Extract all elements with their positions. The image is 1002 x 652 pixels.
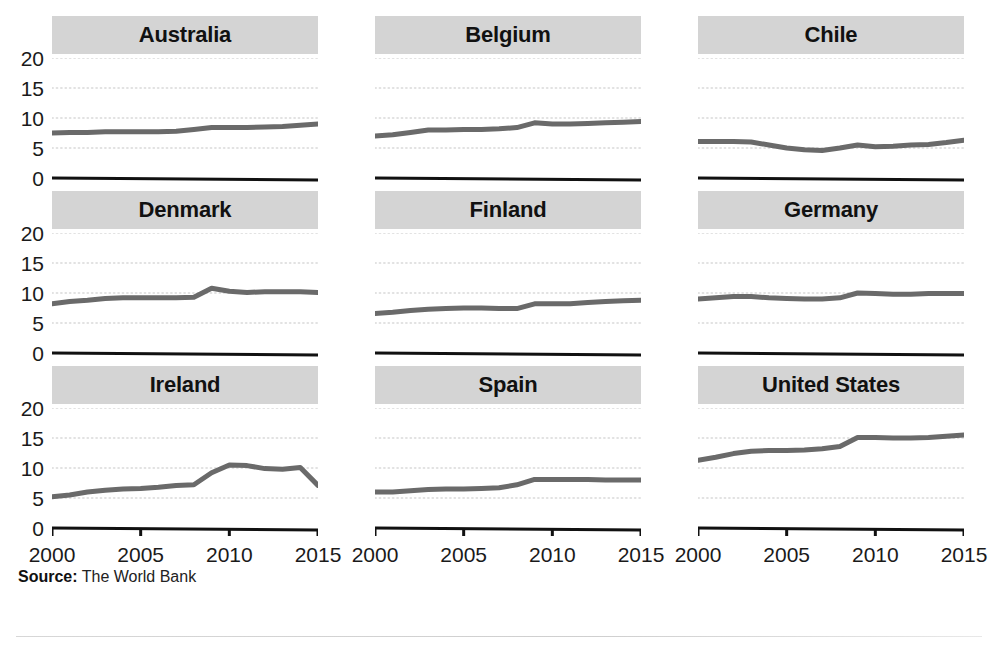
x-axis-line (52, 353, 318, 355)
y-axis-tick-label: 15 (4, 78, 44, 99)
y-axis-tick-label: 10 (4, 458, 44, 479)
y-axis-tick-label: 10 (4, 283, 44, 304)
x-axis-line (52, 178, 318, 180)
plot-area (375, 58, 641, 178)
series-line (52, 288, 318, 304)
source-label: Source: (18, 568, 78, 585)
series-line (52, 124, 318, 133)
panel-title: Australia (52, 16, 318, 54)
plot-svg (375, 408, 641, 536)
x-axis-tick-label: 2000 (340, 544, 410, 565)
y-axis-tick-label: 5 (4, 488, 44, 509)
plot-svg (698, 58, 964, 186)
plot-area (52, 408, 318, 528)
plot-svg (698, 233, 964, 361)
plot-svg (52, 408, 318, 536)
plot-area (375, 233, 641, 353)
x-axis-tick-label: 2000 (17, 544, 87, 565)
plot-area (52, 233, 318, 353)
source-note: Source: The World Bank (18, 568, 196, 586)
panel-title: Finland (375, 191, 641, 229)
x-axis-tick-label: 2015 (929, 544, 999, 565)
panel-title: Germany (698, 191, 964, 229)
x-axis-line (698, 178, 964, 180)
chart-figure: Australia20151050BelgiumChileDenmark2015… (0, 0, 1002, 652)
plot-area (698, 408, 964, 528)
y-axis-tick-label: 20 (4, 398, 44, 419)
x-axis-line (375, 353, 641, 355)
panel-title: Belgium (375, 16, 641, 54)
series-line (375, 300, 641, 313)
series-line (698, 140, 964, 150)
plot-area (698, 233, 964, 353)
x-axis-tick-label: 2005 (429, 544, 499, 565)
series-line (375, 122, 641, 136)
x-axis-line (698, 353, 964, 355)
x-axis-line (698, 528, 964, 530)
small-multiples-grid: Australia20151050BelgiumChileDenmark2015… (0, 8, 1002, 528)
x-axis-tick-label: 2000 (663, 544, 733, 565)
y-axis-tick-label: 0 (4, 168, 44, 189)
y-axis-tick-label: 20 (4, 48, 44, 69)
x-axis-tick-label: 2010 (517, 544, 587, 565)
x-axis-tick-label: 2010 (194, 544, 264, 565)
x-axis-tick-label: 2010 (840, 544, 910, 565)
y-axis-tick-label: 10 (4, 108, 44, 129)
plot-svg (375, 233, 641, 361)
plot-svg (698, 408, 964, 536)
series-line (698, 293, 964, 299)
plot-svg (52, 233, 318, 361)
y-axis-tick-label: 15 (4, 253, 44, 274)
y-axis-tick-label: 5 (4, 313, 44, 334)
y-axis-tick-label: 20 (4, 223, 44, 244)
panel-title: Chile (698, 16, 964, 54)
series-line (375, 479, 641, 492)
x-axis-line (375, 178, 641, 180)
plot-area (698, 58, 964, 178)
y-axis-tick-label: 0 (4, 518, 44, 539)
y-axis-tick-label: 5 (4, 138, 44, 159)
panel-title: Denmark (52, 191, 318, 229)
plot-area (52, 58, 318, 178)
plot-svg (375, 58, 641, 186)
footer-divider (16, 636, 982, 637)
y-axis-tick-label: 15 (4, 428, 44, 449)
y-axis-tick-label: 0 (4, 343, 44, 364)
plot-svg (52, 58, 318, 186)
plot-area (375, 408, 641, 528)
panel-title: United States (698, 366, 964, 404)
x-axis-line (375, 528, 641, 530)
x-axis-tick-label: 2005 (752, 544, 822, 565)
source-value: The World Bank (78, 568, 197, 585)
series-line (52, 465, 318, 497)
panel-title: Ireland (52, 366, 318, 404)
panel-title: Spain (375, 366, 641, 404)
x-axis-line (52, 528, 318, 530)
x-axis-tick-label: 2005 (106, 544, 176, 565)
